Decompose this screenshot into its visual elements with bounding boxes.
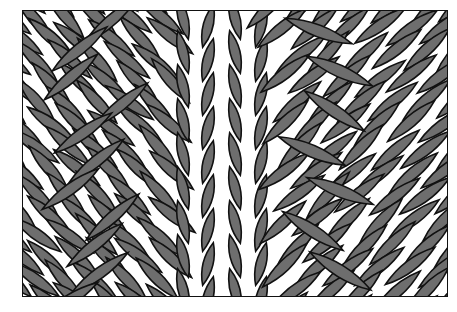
stitch-loop: [198, 71, 218, 116]
stitch-loop: [225, 233, 245, 278]
stitch-loop: [225, 29, 245, 74]
stitch-loop: [198, 37, 218, 82]
knit-stitch-illustration: [22, 10, 448, 297]
stitch-loop: [225, 267, 245, 297]
stitch-loop: [225, 97, 245, 142]
stitch-loop: [447, 196, 448, 243]
stitch-loop: [198, 173, 218, 218]
stitch-loop: [198, 241, 218, 286]
stitch-loop: [198, 207, 218, 252]
stitch-loop: [225, 199, 245, 244]
stitch-loop: [251, 71, 271, 116]
stitch-loop: [225, 63, 245, 108]
stitch-loop: [225, 11, 245, 41]
stitch-loop: [198, 11, 218, 49]
stitch-loop: [225, 131, 245, 176]
stitch-loop: [251, 105, 271, 150]
stitch-loop: [198, 105, 218, 150]
stitch-loop: [198, 139, 218, 184]
stitch-pattern-art: [23, 11, 448, 297]
stitch-loop: [225, 165, 245, 210]
